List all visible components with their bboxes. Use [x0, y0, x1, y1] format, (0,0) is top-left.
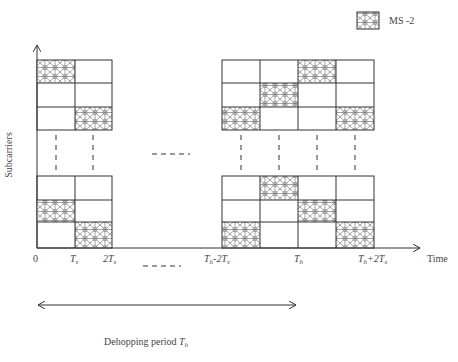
dehopping-period-span: Dehopping period Th: [38, 305, 296, 349]
grid-left-top: [37, 60, 112, 130]
legend-swatch: [357, 12, 379, 29]
tick-th-plus-2ts: Th+2Ts: [358, 253, 387, 266]
y-axis: Subcarriers: [3, 45, 37, 248]
tick-0: 0: [33, 253, 38, 264]
tick-2ts: 2Ts: [103, 253, 117, 266]
x-tick-labels: 0 Ts 2Ts Th-2Ts Th Th+2Ts: [33, 253, 387, 266]
grid-right-bottom: [222, 176, 374, 248]
tick-th-minus-2ts: Th-2Ts: [204, 253, 230, 266]
grid-left-bottom: [37, 176, 112, 248]
x-axis-label: Time: [427, 253, 448, 264]
frequency-hopping-diagram: MS -2 Subcarriers Time: [0, 0, 458, 362]
grid-right-top: [222, 60, 374, 130]
left-vertical-ellipsis: [56, 135, 93, 172]
legend: MS -2: [357, 12, 414, 29]
tick-th: Th: [294, 253, 304, 266]
tick-ts: Ts: [70, 253, 79, 266]
y-axis-label: Subcarriers: [3, 132, 14, 178]
dehopping-period-label: Dehopping period Th: [104, 336, 189, 349]
right-vertical-ellipsis: [241, 135, 355, 172]
legend-label: MS -2: [389, 15, 414, 26]
